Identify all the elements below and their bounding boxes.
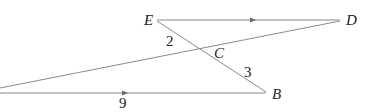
point-label-D: D xyxy=(346,13,357,28)
point-label-B: B xyxy=(272,87,281,102)
segment-AD xyxy=(0,21,340,88)
length-label-AB: 9 xyxy=(119,96,127,111)
segment-EB xyxy=(157,21,266,92)
similar-triangles-diagram xyxy=(0,0,374,112)
length-label-EC: 2 xyxy=(166,34,174,49)
point-label-E: E xyxy=(144,13,153,28)
parallel-arrow-icon xyxy=(250,18,256,23)
point-label-C: C xyxy=(214,46,224,61)
length-label-CB: 3 xyxy=(244,65,252,80)
